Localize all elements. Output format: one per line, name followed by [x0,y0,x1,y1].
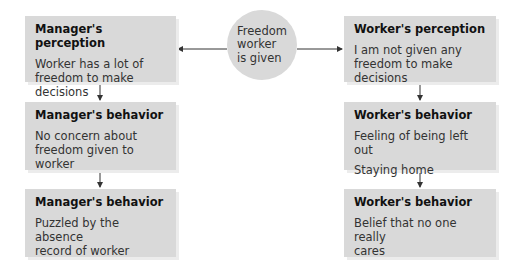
box-text: Feeling of being left out [354,129,486,157]
box-text: cares [354,244,486,258]
box-text: freedom given to worker [35,143,166,171]
box-title: Manager's perception [35,22,166,50]
worker-behavior-box-2: Worker's behavior Belief that no one rea… [344,189,496,257]
center-line: Freedom [237,25,287,39]
worker-behavior-box-1: Worker's behavior Feeling of being left … [344,102,496,170]
box-title: Manager's behavior [35,108,166,122]
box-text: Worker has a lot of [35,57,166,71]
box-text: Staying home [354,163,486,177]
box-title: Worker's perception [354,22,486,36]
manager-behavior-box-1: Manager's behavior No concern about free… [25,102,176,170]
box-text: record of worker [35,244,166,258]
center-line: is given [237,52,287,66]
box-text: No concern about [35,129,166,143]
box-text: freedom to make decisions [354,57,486,85]
manager-behavior-box-2: Manager's behavior Puzzled by the absenc… [25,189,176,257]
box-text: Belief that no one really [354,216,486,244]
worker-perception-box: Worker's perception I am not given any f… [344,16,496,82]
box-title: Manager's behavior [35,195,166,209]
box-text: I am not given any [354,43,486,57]
freedom-given-node: Freedom worker is given [227,10,297,80]
center-line: worker [237,38,287,52]
box-title: Worker's behavior [354,195,486,209]
box-title: Worker's behavior [354,108,486,122]
box-text: freedom to make decisions [35,71,166,99]
box-text: Puzzled by the absence [35,216,166,244]
manager-perception-box: Manager's perception Worker has a lot of… [25,16,176,82]
